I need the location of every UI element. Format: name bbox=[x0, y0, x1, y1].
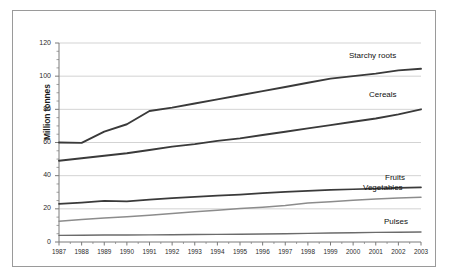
x-tick-label: 2000 bbox=[341, 248, 365, 255]
x-tick-label: 1990 bbox=[115, 248, 139, 255]
y-tick-label: 60 bbox=[29, 138, 51, 145]
series-line-pulses bbox=[59, 232, 421, 235]
series-label-starchy-roots: Starchy roots bbox=[349, 51, 396, 60]
series-lines bbox=[59, 69, 421, 236]
chart-figure: Million tonnes 020406080100120 198719881… bbox=[0, 0, 450, 278]
x-tick-label: 2003 bbox=[409, 248, 433, 255]
x-tick-label: 1989 bbox=[92, 248, 116, 255]
x-tick-marks bbox=[59, 242, 421, 246]
x-tick-label: 1997 bbox=[273, 248, 297, 255]
series-label-vegetables: Vegetables bbox=[363, 183, 403, 192]
x-tick-label: 1994 bbox=[205, 248, 229, 255]
x-tick-label: 1998 bbox=[296, 248, 320, 255]
x-tick-label: 1987 bbox=[47, 248, 71, 255]
y-tick-label: 80 bbox=[29, 105, 51, 112]
x-tick-label: 1999 bbox=[319, 248, 343, 255]
y-tick-label: 20 bbox=[29, 204, 51, 211]
series-label-cereals: Cereals bbox=[369, 90, 397, 99]
chart-plot bbox=[13, 11, 435, 266]
x-tick-label: 1993 bbox=[183, 248, 207, 255]
y-tick-label: 120 bbox=[29, 39, 51, 46]
series-line-cereals bbox=[59, 109, 421, 160]
series-line-starchy-roots bbox=[59, 69, 421, 143]
x-tick-label: 1995 bbox=[228, 248, 252, 255]
series-label-fruits: Fruits bbox=[385, 173, 405, 182]
x-tick-label: 1988 bbox=[70, 248, 94, 255]
chart-frame: Million tonnes 020406080100120 198719881… bbox=[12, 10, 436, 267]
y-tick-label: 40 bbox=[29, 171, 51, 178]
x-tick-label: 1991 bbox=[138, 248, 162, 255]
y-tick-label: 0 bbox=[29, 238, 51, 245]
series-label-pulses: Pulses bbox=[384, 217, 408, 226]
x-tick-label: 1992 bbox=[160, 248, 184, 255]
x-tick-label: 1996 bbox=[251, 248, 275, 255]
x-tick-label: 2001 bbox=[364, 248, 388, 255]
x-tick-label: 2002 bbox=[386, 248, 410, 255]
y-tick-label: 100 bbox=[29, 72, 51, 79]
